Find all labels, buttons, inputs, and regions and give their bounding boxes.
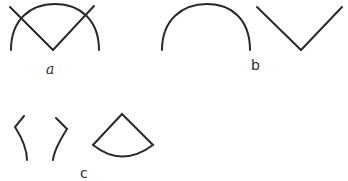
panel-a-label: a (46, 62, 54, 76)
panel-a-arc (11, 4, 99, 50)
panel-b-arc (162, 4, 250, 50)
panel-c-left-fragment (15, 116, 27, 160)
panel-c-label: c (80, 166, 88, 180)
panel-c-sector (93, 114, 153, 157)
diagram-canvas (0, 0, 348, 181)
panel-b (162, 4, 342, 50)
panel-c-right-fragment (53, 118, 67, 160)
panel-c (15, 114, 153, 160)
panel-b-v-shape (257, 7, 342, 50)
panel-b-label: b (251, 58, 260, 72)
panel-a (10, 4, 99, 50)
